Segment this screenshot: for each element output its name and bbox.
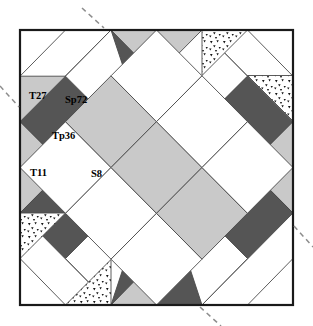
axis-mark-left	[0, 86, 19, 107]
axis-mark-top	[82, 8, 104, 28]
axis-mark-right	[294, 226, 313, 247]
label-t11: T11	[30, 167, 47, 178]
quilt-block-svg: T27 Sp72 Tp36 T11 S8	[0, 0, 313, 326]
label-t27: T27	[29, 90, 47, 101]
label-sp72: Sp72	[65, 94, 87, 105]
label-tp36: Tp36	[52, 130, 75, 141]
axis-mark-bottom	[200, 307, 221, 326]
quilt-block-figure: T27 Sp72 Tp36 T11 S8	[0, 0, 313, 326]
label-s8: S8	[91, 168, 102, 179]
block-pieces	[20, 30, 293, 305]
